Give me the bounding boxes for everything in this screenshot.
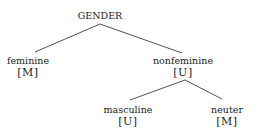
node-masculine: masculine [U] xyxy=(104,104,153,128)
masculine-label: masculine xyxy=(104,104,153,115)
edge-gender-nonfeminine xyxy=(100,24,182,53)
nonfeminine-label: nonfeminine xyxy=(153,55,213,66)
feminine-feature: [M] xyxy=(7,66,49,79)
node-gender: GENDER xyxy=(78,10,123,21)
edge-nonfeminine-neuter xyxy=(185,80,222,99)
masculine-feature: [U] xyxy=(104,115,153,128)
neuter-feature: [M] xyxy=(211,115,243,128)
edge-nonfeminine-masculine xyxy=(130,80,185,100)
node-feminine: feminine [M] xyxy=(7,55,49,79)
root-label: GENDER xyxy=(78,10,123,21)
edge-gender-feminine xyxy=(35,24,100,52)
nonfeminine-feature: [U] xyxy=(153,66,213,79)
node-neuter: neuter [M] xyxy=(211,104,243,128)
neuter-label: neuter xyxy=(211,104,243,115)
node-nonfeminine: nonfeminine [U] xyxy=(153,55,213,79)
feminine-label: feminine xyxy=(7,55,49,66)
